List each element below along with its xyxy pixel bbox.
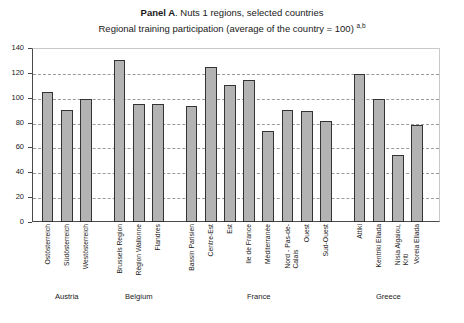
bar: [42, 92, 54, 223]
x-axis-tick-label: Centre-Est: [207, 224, 215, 256]
chart-subtitle-footnote: a,b: [356, 22, 365, 29]
x-axis-tick-label: Région Wallonne: [135, 224, 143, 276]
y-axis-tick-mark: [28, 222, 32, 223]
bars-layer: [32, 48, 440, 222]
bar: [133, 104, 145, 222]
x-axis-tick-label: Westösterreich: [82, 224, 90, 269]
bar: [80, 99, 92, 222]
x-axis-tick-label: Kentriki Ellada: [375, 224, 383, 267]
bar: [301, 111, 313, 222]
x-axis-tick-label: Südösterreich: [63, 224, 71, 266]
y-axis-tick-label: 40: [0, 168, 24, 176]
x-axis-tick-label: Brussels Region: [116, 224, 124, 274]
chart-subtitle: Regional training participation (average…: [0, 19, 464, 36]
bar: [224, 85, 236, 222]
x-axis-tick-label: Ostösterreich: [44, 224, 52, 264]
x-axis-tick-label: Flandres: [154, 224, 162, 250]
bar: [205, 67, 217, 222]
country-group-labels: AustriaBelgiumFranceGreece: [32, 292, 440, 306]
bar: [320, 121, 332, 222]
chart-title-rest: . Nuts 1 regions, selected countries: [175, 7, 323, 18]
x-axis-tick-label: Est: [226, 224, 234, 234]
x-axis-tick-label: Méditerranée: [264, 224, 272, 264]
bar: [392, 155, 404, 222]
bar: [411, 125, 423, 222]
bar: [354, 74, 366, 222]
bar: [114, 60, 126, 222]
y-axis: 020406080100120140: [0, 48, 32, 222]
chart-title-block: Panel A. Nuts 1 regions, selected countr…: [0, 6, 464, 36]
bar: [373, 99, 385, 222]
chart-container: Panel A. Nuts 1 regions, selected countr…: [0, 0, 464, 323]
y-axis-tick-label: 80: [0, 119, 24, 127]
bar: [282, 110, 294, 222]
chart-title: Panel A. Nuts 1 regions, selected countr…: [0, 6, 464, 19]
x-axis-tick-label: Bassin Parisien: [188, 224, 196, 271]
x-axis-tick-label: Nord - Pas-de- Calais: [284, 224, 299, 269]
country-group-label: Austria: [55, 292, 79, 302]
country-group-label: France: [247, 292, 271, 302]
x-axis-tick-label: Ouest: [303, 224, 311, 242]
x-axis-tick-label: Nisia Aigaiou, Kriti: [394, 224, 409, 265]
x-axis-tick-label: Attiki: [356, 224, 364, 239]
country-group-label: Greece: [376, 292, 401, 302]
x-axis-labels: OstösterreichSüdösterreichWestösterreich…: [32, 224, 440, 290]
x-axis-tick-label: Ile de France: [245, 224, 253, 264]
y-axis-tick-label: 20: [0, 193, 24, 201]
country-group-label: Belgium: [125, 292, 152, 302]
x-axis-tick-label: Sud-Ouest: [322, 224, 330, 257]
y-axis-tick-label: 0: [0, 218, 24, 226]
bar: [243, 80, 255, 222]
bar: [186, 106, 198, 222]
y-axis-tick-label: 60: [0, 143, 24, 151]
chart-subtitle-text: Regional training participation (average…: [98, 23, 353, 34]
bar: [61, 110, 73, 222]
y-axis-tick-label: 100: [0, 94, 24, 102]
x-axis-tick-label: Voreia Ellada: [413, 224, 421, 264]
bar: [152, 104, 164, 222]
bar: [262, 131, 274, 222]
chart-title-panel-prefix: Panel A: [141, 7, 176, 18]
y-axis-tick-label: 140: [0, 44, 24, 52]
y-axis-tick-label: 120: [0, 69, 24, 77]
